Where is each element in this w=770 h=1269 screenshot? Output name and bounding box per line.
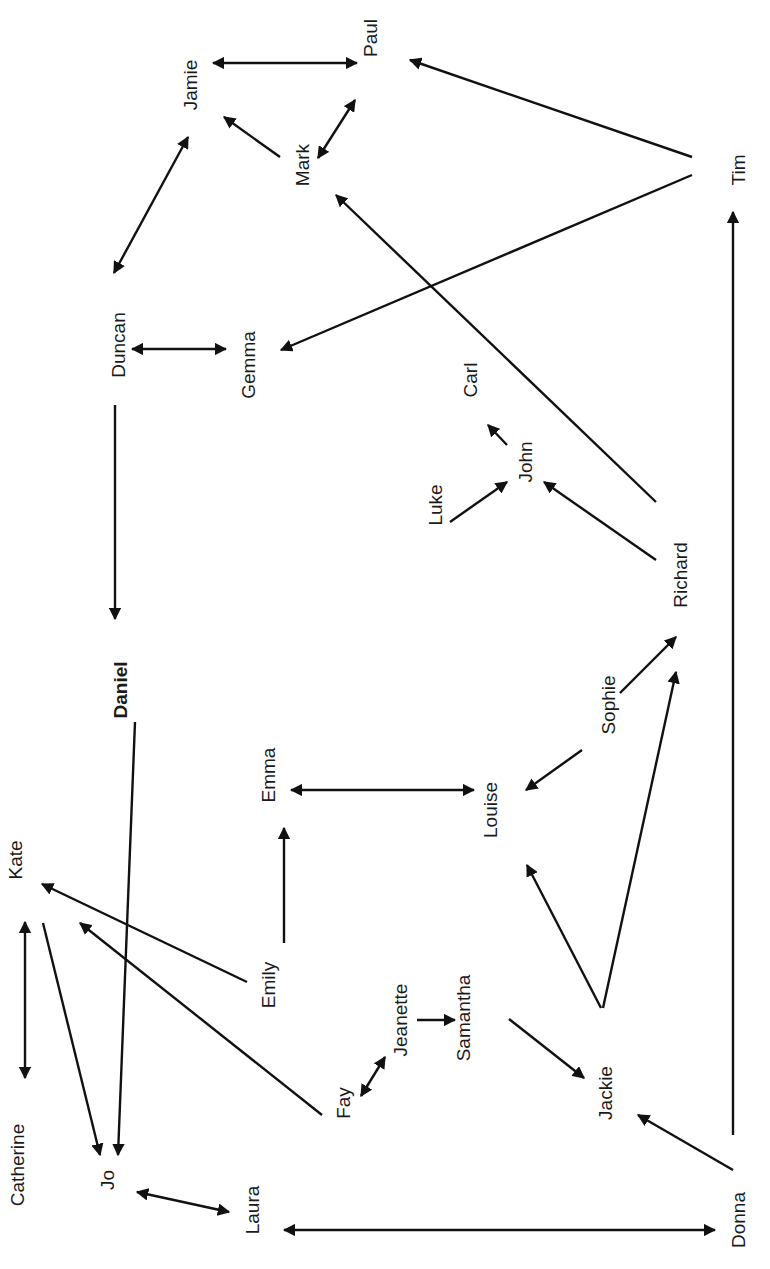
node-richard: Richard xyxy=(670,542,691,607)
node-jackie: Jackie xyxy=(595,1066,616,1120)
node-mark: Mark xyxy=(292,143,313,186)
edge-sophie-to-richard-arrow xyxy=(620,637,676,693)
nodes-layer: PaulJamieMarkTimDuncanGemmaCarlJohnLukeR… xyxy=(5,19,749,1248)
edge-fay-to-kate-arrow xyxy=(80,923,322,1115)
node-louise: Louise xyxy=(480,782,501,838)
edge-richard-to-john-arrow xyxy=(544,482,656,560)
edges-layer xyxy=(25,60,733,1230)
edge-daniel-to-jo-arrow xyxy=(118,722,135,1155)
network-diagram: PaulJamieMarkTimDuncanGemmaCarlJohnLukeR… xyxy=(0,0,770,1269)
edge-jo-to-laura-bidirectional-arrow xyxy=(137,1192,229,1212)
edge-richard-to-mark-arrow xyxy=(336,195,656,502)
edge-mark-to-paul-bidirectional-arrow xyxy=(318,100,355,158)
edge-tim-to-paul-arrow xyxy=(410,60,692,157)
node-emily: Emily xyxy=(258,961,279,1008)
node-luke: Luke xyxy=(425,484,446,525)
node-laura: Laura xyxy=(242,1185,263,1234)
edge-samantha-to-jackie-arrow xyxy=(509,1019,584,1078)
node-emma: Emma xyxy=(258,747,279,802)
edge-sophie-to-louise-arrow xyxy=(526,750,582,790)
node-carl: Carl xyxy=(460,363,481,398)
node-fay: Fay xyxy=(333,1087,354,1119)
node-catherine: Catherine xyxy=(7,1124,28,1206)
edge-fay-to-jeanette-bidirectional-arrow xyxy=(361,1057,385,1096)
node-daniel: Daniel xyxy=(110,661,131,718)
node-tim: Tim xyxy=(728,155,749,186)
edge-donna-to-jackie-arrow xyxy=(638,1115,733,1170)
node-jamie: Jamie xyxy=(180,60,201,111)
node-donna: Donna xyxy=(728,1192,749,1248)
node-jeanette: Jeanette xyxy=(390,984,411,1057)
node-sophie: Sophie xyxy=(598,675,619,734)
edge-emily-to-kate-arrow xyxy=(42,884,247,982)
node-paul: Paul xyxy=(360,19,381,57)
node-kate: Kate xyxy=(5,840,26,879)
node-jo: Jo xyxy=(97,1170,118,1190)
edge-john-to-carl-arrow xyxy=(488,425,507,445)
edge-jackie-to-louise-arrow xyxy=(527,865,601,1008)
edge-jamie-to-duncan-bidirectional-arrow xyxy=(114,137,188,273)
edge-mark-to-jamie-arrow xyxy=(224,117,280,157)
edge-luke-to-john-arrow xyxy=(450,482,507,522)
node-duncan: Duncan xyxy=(108,312,129,378)
node-john: John xyxy=(515,441,536,482)
edge-kate-to-jo-arrow xyxy=(43,923,100,1155)
node-samantha: Samantha xyxy=(453,974,474,1061)
node-gemma: Gemma xyxy=(238,331,259,399)
